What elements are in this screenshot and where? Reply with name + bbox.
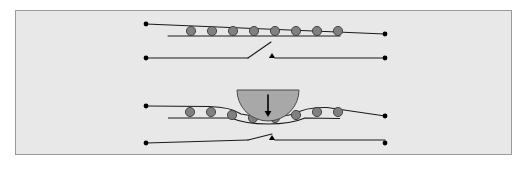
bead [207, 26, 216, 35]
terminal-dot-left-switch-closed [144, 141, 149, 146]
terminal-dot-right-chain-undeformed [383, 32, 388, 37]
bead [206, 107, 215, 116]
switch-blade-open [248, 42, 271, 58]
terminal-dot-left-chain-undeformed [144, 22, 149, 27]
terminal-dot-right-chain-indented [383, 114, 388, 119]
diagram-canvas [0, 0, 524, 169]
bead [333, 107, 342, 116]
bead [312, 26, 321, 35]
switch-contact-marker-closed [269, 135, 275, 140]
bead [228, 26, 237, 35]
bead [333, 26, 342, 35]
bead-group-undeformed [186, 26, 342, 35]
indenter [237, 90, 299, 121]
bead [312, 107, 321, 116]
bead [227, 110, 236, 119]
scene-indented [144, 90, 388, 145]
bead [249, 26, 258, 35]
chain-rail-top-undeformed [146, 24, 385, 34]
switch-wire-left-closed [146, 140, 248, 143]
terminal-dot-right-switch-open [383, 56, 388, 61]
switch-contact-marker-open [269, 53, 275, 58]
switch-open [144, 42, 388, 60]
scene-undeformed [144, 22, 388, 61]
bead [185, 107, 194, 116]
switch-blade-closed [248, 134, 272, 140]
terminal-dot-right-switch-closed [383, 141, 388, 146]
bead [291, 110, 300, 119]
terminal-dot-left-switch-open [144, 56, 149, 61]
bead [291, 26, 300, 35]
bead [186, 26, 195, 35]
figure-root [0, 0, 524, 169]
terminal-dot-left-chain-indented [144, 104, 149, 109]
bead [270, 26, 279, 35]
bead-chain-undeformed [144, 22, 388, 37]
switch-closed [144, 134, 388, 145]
